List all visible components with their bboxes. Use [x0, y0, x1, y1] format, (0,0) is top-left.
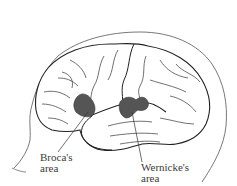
wernicke-area-label: Wernicke's area — [141, 162, 189, 184]
chin-outline — [12, 168, 26, 172]
wernicke-label-line2: area — [141, 173, 189, 184]
broca-area-label: Broca's area — [40, 152, 73, 174]
broca-label-line2: area — [40, 163, 73, 174]
brain-diagram — [0, 0, 237, 186]
